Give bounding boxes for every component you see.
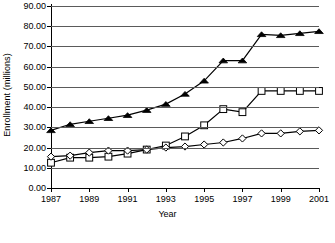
- x-axis-tick: [128, 188, 129, 192]
- enrollment-line-chart: Enrollment (millions) 90.0080.0070.0060.…: [0, 0, 335, 243]
- x-axis-tick: [204, 188, 205, 192]
- gridline: [51, 67, 319, 68]
- x-axis-tick-label: 1999: [271, 194, 291, 204]
- y-axis-tick-label: 60.00: [23, 62, 46, 72]
- series-triangle-marker: [142, 108, 151, 113]
- y-axis-tick-label: 90.00: [23, 1, 46, 11]
- series-triangle-marker: [123, 113, 132, 118]
- y-axis-tick: [47, 168, 51, 169]
- x-axis-tick: [281, 188, 282, 192]
- gridline: [51, 107, 319, 108]
- series-diamond: [47, 127, 322, 160]
- series-square-marker: [316, 88, 323, 95]
- y-axis-tick-label: 30.00: [23, 122, 46, 132]
- series-diamond-marker: [220, 139, 227, 146]
- y-axis-tick-label: 40.00: [23, 102, 46, 112]
- x-axis-tick-label: 1997: [232, 194, 252, 204]
- x-axis-tick-label: 1989: [79, 194, 99, 204]
- series-square-marker: [296, 88, 303, 95]
- y-axis-tick: [47, 148, 51, 149]
- series-square-marker: [277, 88, 284, 95]
- gridline: [51, 168, 319, 169]
- x-axis-tick-label: 1995: [194, 194, 214, 204]
- x-axis-tick-label: 1987: [41, 194, 61, 204]
- series-triangle: [47, 29, 324, 133]
- series-diamond-marker: [239, 135, 246, 142]
- x-axis-tick: [319, 188, 320, 192]
- y-axis-tick: [47, 67, 51, 68]
- x-axis-tick: [242, 188, 243, 192]
- y-axis-tick: [47, 107, 51, 108]
- gridline: [51, 46, 319, 47]
- x-axis-tick: [51, 188, 52, 192]
- y-axis-tick: [47, 6, 51, 7]
- series-square-marker: [239, 109, 246, 116]
- x-axis-tick-label: 2001: [309, 194, 329, 204]
- x-axis-tick-label: 1991: [118, 194, 138, 204]
- gridline: [51, 26, 319, 27]
- series-diamond-marker: [296, 128, 303, 135]
- y-axis-tick-label: 70.00: [23, 41, 46, 51]
- y-axis-tick-label: 0.00: [28, 183, 46, 193]
- x-axis-tick: [166, 188, 167, 192]
- legend-cutoff-strip: [40, 232, 300, 243]
- y-axis-tick-label: 80.00: [23, 21, 46, 31]
- x-axis-tick: [89, 188, 90, 192]
- series-diamond-marker: [181, 143, 188, 150]
- series-diamond-marker: [258, 130, 265, 137]
- series-triangle-marker: [200, 78, 209, 83]
- gridline: [51, 87, 319, 88]
- gridline: [51, 6, 319, 7]
- y-axis-tick: [47, 46, 51, 47]
- y-axis-tick-label: 20.00: [23, 143, 46, 153]
- y-axis-tick: [47, 127, 51, 128]
- series-square-marker: [182, 133, 189, 140]
- y-axis-tick: [47, 87, 51, 88]
- series-layer: [51, 6, 319, 188]
- y-axis-tick-label: 10.00: [23, 163, 46, 173]
- x-axis-tick-labels: 19871989199119931995199719992001: [0, 194, 335, 208]
- gridline: [51, 148, 319, 149]
- plot-area: [51, 6, 319, 188]
- y-axis-tick-labels: 90.0080.0070.0060.0050.0040.0030.0020.00…: [10, 0, 48, 194]
- y-axis-tick-label: 50.00: [23, 82, 46, 92]
- x-axis-title: Year: [0, 209, 335, 219]
- x-axis-tick-label: 1993: [156, 194, 176, 204]
- gridline: [51, 127, 319, 128]
- series-square-marker: [258, 88, 265, 95]
- y-axis-tick: [47, 26, 51, 27]
- series-diamond-marker: [277, 130, 284, 137]
- gridline: [51, 188, 319, 189]
